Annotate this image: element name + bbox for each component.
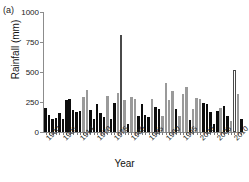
y-tick-mark <box>40 102 43 103</box>
y-axis-label: Rainfall (mm) <box>10 7 21 93</box>
bar-2011 <box>237 94 239 132</box>
bar-1900 <box>44 108 46 132</box>
bar-1976 <box>117 93 119 132</box>
bar-1985 <box>147 117 149 132</box>
y-tick-mark <box>40 72 43 73</box>
y-tick-mark <box>40 132 43 133</box>
x-tick-mark <box>145 132 146 135</box>
bar-series <box>44 12 243 132</box>
bar-1906 <box>65 100 67 132</box>
bar-2000 <box>199 99 201 132</box>
bar-1970 <box>96 104 98 132</box>
bar-1977 <box>120 35 122 132</box>
plot-area: 02505007501000 1900190519141970197519801… <box>43 12 243 132</box>
bar-1915 <box>82 97 84 132</box>
y-tick-mark <box>40 42 43 43</box>
bar-2005 <box>216 111 218 132</box>
bar-1990 <box>165 83 167 132</box>
y-tick-mark <box>40 12 43 13</box>
bar-1991 <box>168 100 170 132</box>
bar-1986 <box>151 99 153 132</box>
chart-panel: (a) Rainfall (mm) 02505007501000 1900190… <box>0 0 249 182</box>
bar-1914 <box>79 111 81 132</box>
bar-1996 <box>185 87 187 132</box>
x-axis-label: Year <box>0 158 249 169</box>
bar-1975 <box>113 103 115 132</box>
bar-1980 <box>130 97 132 132</box>
bar-1995 <box>182 94 184 132</box>
bar-1981 <box>134 99 136 132</box>
bar-2010 <box>233 70 235 132</box>
